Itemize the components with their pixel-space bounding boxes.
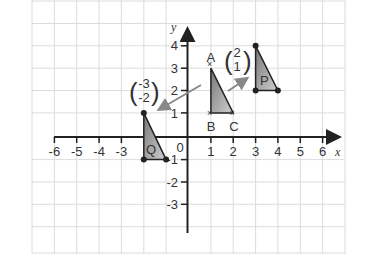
svg-text:(: (	[224, 46, 233, 76]
vertex-label-c: C	[229, 119, 238, 134]
vertex-label-a: A	[207, 50, 216, 65]
svg-text:): )	[151, 77, 160, 107]
coordinate-grid: -6 -5 -4 -3 1 2 3 4 5 6 4 3 2 1 -1 -2 -3…	[0, 0, 379, 257]
svg-text:4: 4	[274, 144, 281, 159]
svg-text:1: 1	[171, 106, 178, 121]
svg-text:-6: -6	[49, 144, 61, 159]
svg-text:6: 6	[319, 144, 326, 159]
svg-text:3: 3	[171, 61, 178, 76]
svg-text:-2: -2	[166, 175, 178, 190]
svg-text:×: ×	[207, 108, 212, 118]
diagram-stage: -6 -5 -4 -3 1 2 3 4 5 6 4 3 2 1 -1 -2 -3…	[0, 0, 379, 257]
svg-text:2: 2	[230, 144, 237, 159]
svg-text:1: 1	[207, 144, 214, 159]
svg-text:2: 2	[171, 83, 178, 98]
label-q: Q	[146, 142, 156, 157]
svg-text:-2: -2	[138, 90, 150, 105]
svg-text:5: 5	[297, 144, 304, 159]
label-p: P	[260, 73, 269, 88]
svg-text:(: (	[129, 77, 138, 107]
vector-to-q: ( ) -3 -2	[129, 76, 160, 107]
y-axis-label: y	[170, 20, 177, 34]
arrow-to-p	[228, 79, 246, 91]
svg-text:-4: -4	[93, 144, 105, 159]
svg-text:-5: -5	[71, 144, 83, 159]
svg-text:3: 3	[252, 144, 259, 159]
svg-text:): )	[243, 46, 252, 76]
svg-text:1: 1	[233, 59, 240, 74]
x-axis-label: x	[334, 145, 341, 159]
vertex-label-b: B	[207, 119, 216, 134]
y-tick-labels: 4 3 2 1 -1 -2 -3	[166, 38, 178, 212]
svg-text:2: 2	[233, 45, 240, 60]
svg-text:-3: -3	[166, 197, 178, 212]
svg-text:4: 4	[171, 38, 178, 53]
svg-text:-3: -3	[116, 144, 128, 159]
svg-text:-3: -3	[138, 76, 150, 91]
svg-text:×: ×	[230, 108, 235, 118]
origin-label: 0	[176, 140, 183, 155]
axes	[54, 30, 338, 233]
vector-to-p: ( ) 2 1	[224, 45, 252, 76]
